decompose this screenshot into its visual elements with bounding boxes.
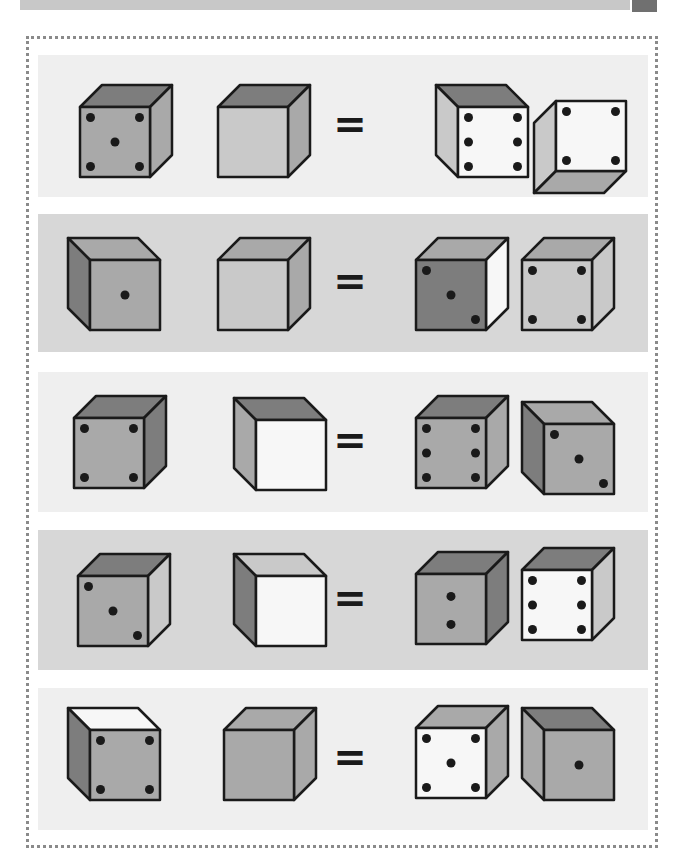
pip xyxy=(575,761,584,770)
pip xyxy=(471,424,480,433)
pip xyxy=(577,576,586,585)
pip xyxy=(577,266,586,275)
pip xyxy=(96,736,105,745)
pip xyxy=(464,138,473,147)
die-2-1 xyxy=(68,238,160,330)
header-tab xyxy=(632,0,657,12)
pip xyxy=(528,625,537,634)
pip xyxy=(464,162,473,171)
pip xyxy=(611,107,620,116)
pip xyxy=(121,291,130,300)
puzzle-row-1: = xyxy=(38,55,648,197)
pip xyxy=(471,734,480,743)
pip xyxy=(611,156,620,165)
die-4-3 xyxy=(416,552,508,644)
die-3-3 xyxy=(416,396,508,488)
die-1-1 xyxy=(80,85,172,177)
die-2-3 xyxy=(416,238,508,330)
pip xyxy=(471,449,480,458)
die-5-1 xyxy=(68,708,160,800)
die-5-4 xyxy=(522,708,614,800)
pip xyxy=(528,576,537,585)
pip xyxy=(84,582,93,591)
pip xyxy=(145,785,154,794)
pip xyxy=(577,601,586,610)
equals-sign: = xyxy=(333,417,367,463)
pip xyxy=(471,783,480,792)
pip xyxy=(422,783,431,792)
pip xyxy=(528,266,537,275)
puzzle-row-2: = xyxy=(38,214,648,352)
pip xyxy=(562,156,571,165)
header-bar xyxy=(20,0,630,10)
pip xyxy=(528,315,537,324)
pip xyxy=(80,473,89,482)
pip xyxy=(109,607,118,616)
pip xyxy=(422,266,431,275)
pip xyxy=(447,759,456,768)
pip xyxy=(575,455,584,464)
die-3-1 xyxy=(74,396,166,488)
pip xyxy=(133,631,142,640)
die-2-2 xyxy=(218,238,310,330)
pip xyxy=(145,736,154,745)
pip xyxy=(422,473,431,482)
pip xyxy=(129,473,138,482)
pip xyxy=(562,107,571,116)
puzzle-row-4: = xyxy=(38,530,648,670)
equals-sign: = xyxy=(333,101,367,147)
pip xyxy=(80,424,89,433)
pip xyxy=(129,424,138,433)
equals-sign: = xyxy=(333,734,367,780)
die-2-4 xyxy=(522,238,614,330)
pip xyxy=(135,113,144,122)
pip xyxy=(513,162,522,171)
pip xyxy=(577,625,586,634)
die-1-4 xyxy=(534,101,626,193)
pip xyxy=(422,734,431,743)
pip xyxy=(550,430,559,439)
pip xyxy=(422,424,431,433)
pip xyxy=(471,315,480,324)
pip xyxy=(111,138,120,147)
pip xyxy=(599,479,608,488)
equals-sign: = xyxy=(333,258,367,304)
pip xyxy=(96,785,105,794)
die-4-4 xyxy=(522,548,614,640)
pip xyxy=(464,113,473,122)
pip xyxy=(513,113,522,122)
pip xyxy=(86,113,95,122)
die-3-2 xyxy=(234,398,326,490)
pip xyxy=(135,162,144,171)
pip xyxy=(447,620,456,629)
pip xyxy=(422,449,431,458)
pip xyxy=(513,138,522,147)
puzzle-row-3: = xyxy=(38,372,648,512)
pip xyxy=(447,592,456,601)
die-1-3 xyxy=(436,85,528,177)
die-3-4 xyxy=(522,402,614,494)
pip xyxy=(447,291,456,300)
die-1-2 xyxy=(218,85,310,177)
pip xyxy=(471,473,480,482)
pip xyxy=(86,162,95,171)
pip xyxy=(577,315,586,324)
die-4-1 xyxy=(78,554,170,646)
equals-sign: = xyxy=(333,575,367,621)
puzzle-row-5: = xyxy=(38,688,648,830)
pip xyxy=(528,601,537,610)
die-5-2 xyxy=(224,708,316,800)
die-5-3 xyxy=(416,706,508,798)
die-4-2 xyxy=(234,554,326,646)
